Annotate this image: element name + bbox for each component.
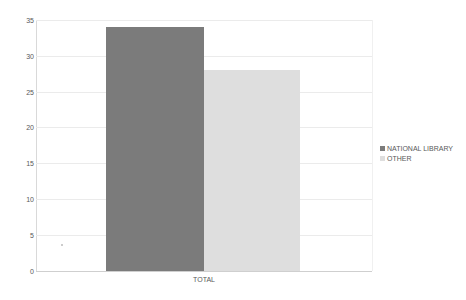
legend-label: OTHER (387, 155, 412, 162)
x-category-label: TOTAL (193, 276, 215, 283)
y-tick-label: 20 (26, 124, 34, 131)
plot-area-border (372, 20, 373, 271)
legend-swatch (380, 146, 385, 151)
y-tick-label: 0 (30, 268, 34, 275)
y-tick-label: 5 (30, 232, 34, 239)
y-tick-label: 35 (26, 17, 34, 24)
y-tick-label: 15 (26, 160, 34, 167)
y-tick-label: 10 (26, 196, 34, 203)
marker-dot (61, 244, 63, 246)
x-axis-line (36, 271, 372, 272)
legend-label: NATIONAL LIBRARY (387, 145, 453, 152)
bar-chart: 0 5 10 15 20 25 30 35 TOTAL NATIONAL LIB… (0, 0, 466, 300)
y-axis-line (36, 20, 37, 271)
legend: NATIONAL LIBRARY OTHER (380, 143, 453, 163)
y-tick-label: 25 (26, 89, 34, 96)
legend-item-national-library: NATIONAL LIBRARY (380, 143, 453, 153)
bar-national-library (106, 27, 204, 271)
legend-item-other: OTHER (380, 153, 453, 163)
bar-other (204, 70, 300, 271)
gridline (36, 56, 372, 57)
gridline (36, 20, 372, 21)
y-tick-label: 30 (26, 53, 34, 60)
legend-swatch (380, 156, 385, 161)
